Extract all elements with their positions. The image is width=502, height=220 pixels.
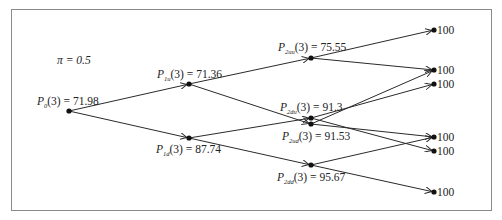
node-p1d [186,135,191,140]
node-p1u [186,81,191,86]
label-p2du: P2du(3) = 91.3 [279,101,343,115]
label-p1u: P1u(3) = 71.36 [156,68,222,82]
label-p2ud-value: (3) = 91.53 [299,130,351,143]
tree-nodes [66,27,436,194]
label-p2uu-symbol: P [277,41,285,53]
label-p2du-value: (3) = 91.3 [297,101,343,114]
label-p1u-value: (3) = 71.36 [171,68,223,81]
label-p2uu-value: (3) = 75.55 [295,41,347,54]
label-p2dd: P2dd(3) = 95.67 [276,171,346,185]
label-p0-value: (3) = 71.98 [47,95,99,108]
node-p2du [308,115,313,120]
terminal-label-5: 100 [437,145,455,157]
terminal-label-3: 100 [437,78,455,90]
label-p1d-value: (3) = 87.74 [170,143,222,156]
label-p2dd-symbol: P [276,171,284,183]
label-p2uu: P2uu(3) = 75.55 [277,41,347,55]
label-p0: P0(3) = 71.98 [36,95,99,109]
terminal-label-2: 100 [437,64,455,76]
label-p0-symbol: P [36,95,44,107]
terminal-node-3 [431,81,436,86]
node-p0 [66,108,71,113]
terminal-label-4: 100 [437,131,455,143]
node-p2uu [308,55,313,60]
terminal-label-6: 100 [437,186,455,198]
terminal-node-1 [431,27,436,32]
node-p2ud [308,121,313,126]
terminal-node-2 [431,67,436,72]
terminal-label-1: 100 [437,24,455,36]
terminal-node-4 [431,134,436,139]
edge-p1d-p2du [189,118,309,138]
edge-p0-p1d [69,111,187,138]
terminal-node-6 [431,189,436,194]
terminal-node-5 [431,148,436,153]
edge-p1u-p2ud [189,84,309,123]
node-p2dd [308,162,313,167]
label-p2du-symbol: P [279,101,287,113]
label-p2ud: P2ud(3) = 91.53 [281,130,351,144]
label-p1d-symbol: P [155,143,163,155]
tree-edges [69,30,432,191]
label-p2dd-value: (3) = 95.67 [294,171,346,184]
binomial-tree-diagram: π = 0.5 P0(3) = 71.98 P1u(3) = 71.36 P1d… [0,0,502,220]
probability-label: π = 0.5 [57,54,91,66]
label-p1u-symbol: P [156,68,164,80]
label-p2ud-symbol: P [281,130,289,142]
label-p1d: P1d(3) = 87.74 [155,143,221,157]
edge-p2ud-t2 [311,71,432,124]
edge-p2uu-t2 [311,58,432,70]
